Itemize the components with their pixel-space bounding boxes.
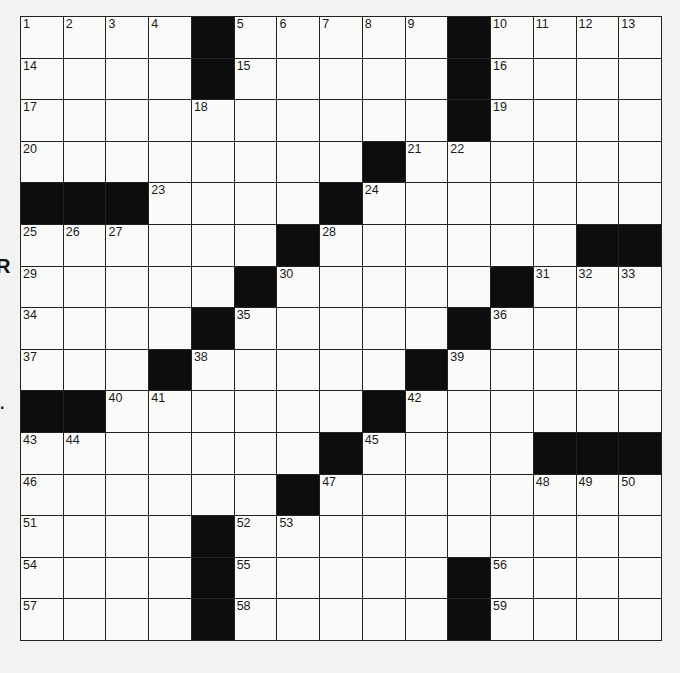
grid-cell[interactable] [448,516,490,557]
grid-cell[interactable] [363,516,405,557]
grid-cell[interactable] [277,100,319,141]
grid-cell[interactable] [235,142,277,183]
grid-cell[interactable] [277,391,319,432]
grid-cell[interactable]: 24 [363,183,405,224]
grid-cell[interactable] [406,308,448,349]
grid-cell[interactable] [106,100,148,141]
grid-cell[interactable]: 4 [149,17,191,58]
grid-cell[interactable] [277,308,319,349]
grid-cell[interactable]: 16 [491,59,533,100]
grid-cell[interactable] [491,350,533,391]
grid-cell[interactable]: 23 [149,183,191,224]
grid-cell[interactable]: 13 [619,17,661,58]
grid-cell[interactable] [619,100,661,141]
grid-cell[interactable] [577,391,619,432]
grid-cell[interactable]: 5 [235,17,277,58]
grid-cell[interactable] [277,350,319,391]
grid-cell[interactable] [64,558,106,599]
grid-cell[interactable]: 56 [491,558,533,599]
grid-cell[interactable]: 54 [21,558,63,599]
grid-cell[interactable] [149,558,191,599]
grid-cell[interactable]: 50 [619,475,661,516]
grid-cell[interactable] [577,599,619,640]
grid-cell[interactable]: 29 [21,267,63,308]
grid-cell[interactable]: 21 [406,142,448,183]
grid-cell[interactable] [149,516,191,557]
grid-cell[interactable]: 7 [320,17,362,58]
grid-cell[interactable]: 46 [21,475,63,516]
grid-cell[interactable]: 2 [64,17,106,58]
grid-cell[interactable] [320,558,362,599]
grid-cell[interactable]: 42 [406,391,448,432]
grid-cell[interactable] [192,391,234,432]
grid-cell[interactable] [577,350,619,391]
grid-cell[interactable] [534,142,576,183]
grid-cell[interactable]: 43 [21,433,63,474]
grid-cell[interactable] [577,142,619,183]
grid-cell[interactable]: 58 [235,599,277,640]
grid-cell[interactable] [320,350,362,391]
grid-cell[interactable] [235,475,277,516]
grid-cell[interactable] [406,100,448,141]
grid-cell[interactable]: 17 [21,100,63,141]
grid-cell[interactable]: 25 [21,225,63,266]
grid-cell[interactable] [149,225,191,266]
grid-cell[interactable]: 14 [21,59,63,100]
grid-cell[interactable] [64,599,106,640]
grid-cell[interactable]: 20 [21,142,63,183]
grid-cell[interactable] [106,267,148,308]
grid-cell[interactable]: 18 [192,100,234,141]
grid-cell[interactable] [149,475,191,516]
grid-cell[interactable] [64,475,106,516]
grid-cell[interactable]: 19 [491,100,533,141]
grid-cell[interactable] [491,433,533,474]
grid-cell[interactable]: 12 [577,17,619,58]
grid-cell[interactable] [106,142,148,183]
grid-cell[interactable] [491,183,533,224]
grid-cell[interactable]: 55 [235,558,277,599]
grid-cell[interactable] [406,225,448,266]
grid-cell[interactable] [619,308,661,349]
grid-cell[interactable]: 27 [106,225,148,266]
grid-cell[interactable] [277,558,319,599]
grid-cell[interactable] [406,59,448,100]
grid-cell[interactable] [363,558,405,599]
grid-cell[interactable]: 51 [21,516,63,557]
grid-cell[interactable] [619,142,661,183]
grid-cell[interactable] [277,142,319,183]
grid-cell[interactable] [64,308,106,349]
grid-cell[interactable]: 36 [491,308,533,349]
grid-cell[interactable] [448,475,490,516]
grid-cell[interactable]: 30 [277,267,319,308]
grid-cell[interactable] [149,599,191,640]
grid-cell[interactable] [320,391,362,432]
grid-cell[interactable] [619,391,661,432]
grid-cell[interactable] [534,100,576,141]
grid-cell[interactable] [106,59,148,100]
grid-cell[interactable]: 33 [619,267,661,308]
grid-cell[interactable]: 9 [406,17,448,58]
grid-cell[interactable] [320,308,362,349]
grid-cell[interactable] [64,516,106,557]
grid-cell[interactable]: 26 [64,225,106,266]
grid-cell[interactable] [406,475,448,516]
grid-cell[interactable]: 48 [534,475,576,516]
grid-cell[interactable] [149,433,191,474]
grid-cell[interactable] [192,475,234,516]
grid-cell[interactable] [235,433,277,474]
grid-cell[interactable] [577,100,619,141]
grid-cell[interactable]: 40 [106,391,148,432]
grid-cell[interactable] [64,350,106,391]
grid-cell[interactable] [363,100,405,141]
grid-cell[interactable]: 57 [21,599,63,640]
grid-cell[interactable]: 11 [534,17,576,58]
grid-cell[interactable] [192,142,234,183]
grid-cell[interactable] [619,59,661,100]
grid-cell[interactable] [534,225,576,266]
grid-cell[interactable] [448,183,490,224]
grid-cell[interactable] [577,183,619,224]
grid-cell[interactable] [320,599,362,640]
grid-cell[interactable] [106,433,148,474]
grid-cell[interactable] [363,475,405,516]
grid-cell[interactable] [619,183,661,224]
